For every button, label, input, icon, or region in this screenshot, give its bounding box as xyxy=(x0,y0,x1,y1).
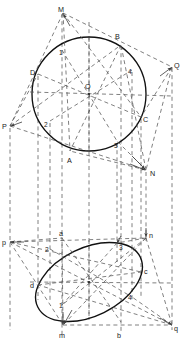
top-view-construction-lines xyxy=(30,38,172,152)
label-P: P xyxy=(2,122,7,131)
ray-n-1 xyxy=(62,238,146,305)
ray-p-q xyxy=(10,242,172,325)
projector-lines-group xyxy=(10,14,172,337)
label-4: 4 xyxy=(128,68,132,75)
center-point-O xyxy=(88,93,90,95)
figure-svg: M B Q D 4 1 C P 2 3 A N O xyxy=(0,0,183,347)
label-M: M xyxy=(58,5,64,14)
front-view-vertex-arrows xyxy=(11,228,172,325)
axis-h-front xyxy=(30,282,172,283)
frame-p-m xyxy=(10,242,63,325)
label-3f: 3 xyxy=(119,244,123,251)
arrow-to-3f xyxy=(117,236,121,243)
label-1: 1 xyxy=(59,49,63,56)
top-view-group: M B Q D 4 1 C P 2 3 A N O xyxy=(2,5,180,178)
ray-M-C xyxy=(63,13,141,117)
center-point-o-front xyxy=(88,281,90,283)
front-view-group: p a n 2 3 c d 4 1 m b q xyxy=(2,226,178,340)
label-D: D xyxy=(30,68,35,77)
top-view-vertex-arrows xyxy=(11,15,172,171)
ray-N-A xyxy=(70,151,146,170)
label-4f: 4 xyxy=(128,294,132,301)
label-2: 2 xyxy=(44,121,48,128)
label-c: c xyxy=(144,267,148,276)
frame-Q-N xyxy=(146,67,172,170)
label-C: C xyxy=(143,115,148,124)
label-p: p xyxy=(2,238,6,247)
label-Q: Q xyxy=(174,61,180,70)
label-a: a xyxy=(59,229,63,238)
diameter-1-3 xyxy=(62,50,117,141)
label-n: n xyxy=(149,231,153,240)
front-view-construction-lines xyxy=(30,238,172,322)
label-m: m xyxy=(59,331,65,340)
label-N: N xyxy=(150,169,155,178)
label-A: A xyxy=(67,156,72,165)
diameter-BA xyxy=(70,45,121,151)
label-2f: 2 xyxy=(45,246,49,253)
label-q: q xyxy=(174,324,178,333)
label-b: b xyxy=(117,331,121,340)
label-3: 3 xyxy=(114,142,118,149)
arrow-to-M xyxy=(64,15,71,27)
label-O: O xyxy=(85,82,91,91)
front-view-frame-lines xyxy=(10,238,172,325)
ray-p-a xyxy=(10,238,62,242)
frame-P-N xyxy=(10,126,146,170)
chord-ab xyxy=(62,238,121,322)
frame-n-q xyxy=(146,238,172,325)
frame-M-P xyxy=(10,13,63,126)
ray-M-A xyxy=(63,13,70,151)
frame-p-n xyxy=(10,238,146,242)
label-d: d xyxy=(30,281,34,290)
arrow-to-q xyxy=(160,318,172,325)
label-1f: 1 xyxy=(59,302,63,309)
chord-1-3 xyxy=(62,243,117,305)
ray-q-4 xyxy=(132,297,172,325)
label-B: B xyxy=(115,32,120,41)
technical-drawing-figure: M B Q D 4 1 C P 2 3 A N O xyxy=(0,0,183,347)
